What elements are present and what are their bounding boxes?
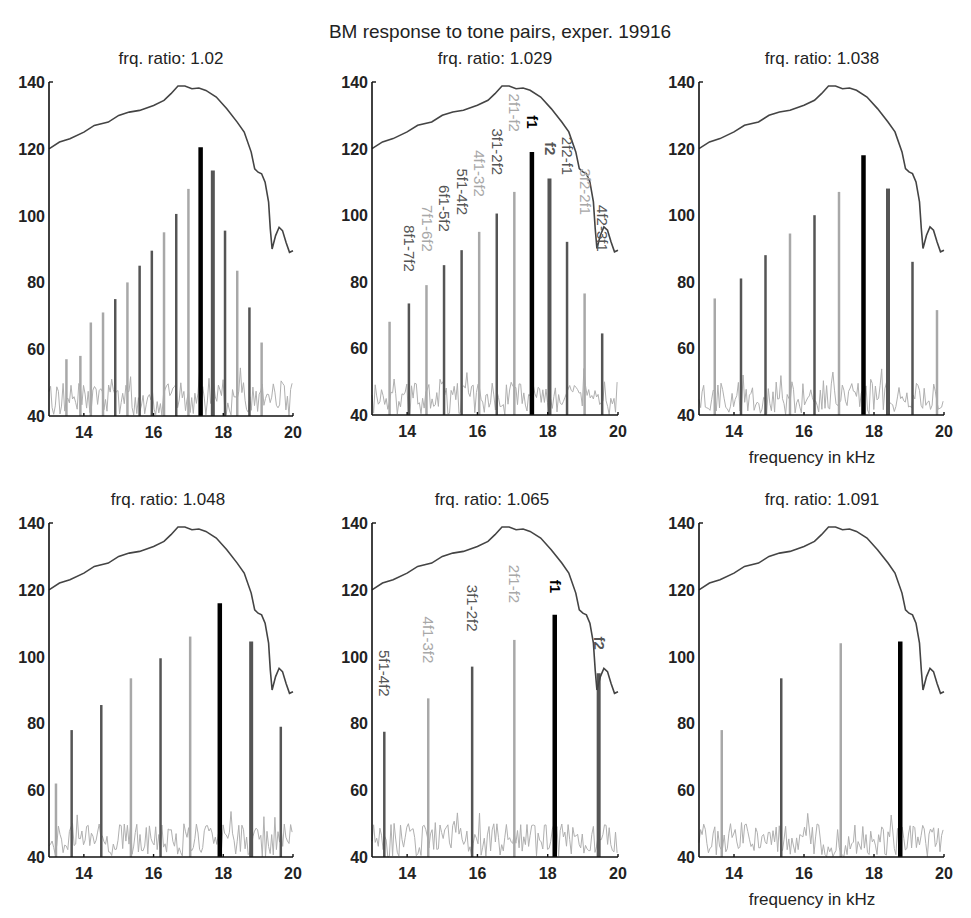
bm-response-envelope xyxy=(372,527,618,693)
x-tick-label: 16 xyxy=(469,865,487,882)
component-label: 4f2-3f1 xyxy=(594,205,611,252)
y-tick-label: 40 xyxy=(350,849,368,866)
x-tick-label: 16 xyxy=(145,865,163,882)
x-tick-label: 14 xyxy=(398,865,416,882)
y-tick-label: 40 xyxy=(27,849,45,866)
y-tick-label: 80 xyxy=(27,715,45,732)
x-tick-label: 14 xyxy=(75,865,93,882)
bm-response-envelope xyxy=(49,86,293,252)
x-tick-label: 20 xyxy=(609,423,627,440)
noise-floor-trace xyxy=(49,812,292,857)
noise-floor-trace xyxy=(699,369,943,415)
bm-response-envelope xyxy=(699,86,944,252)
x-axis-label: frequency in kHz xyxy=(749,448,876,467)
y-tick-label: 60 xyxy=(350,782,368,799)
component-label: 4f1-3f2 xyxy=(420,617,437,664)
x-tick-label: 18 xyxy=(539,865,557,882)
y-tick-label: 140 xyxy=(668,515,695,532)
component-label: f2 xyxy=(591,637,608,650)
component-label: 2f1-f2 xyxy=(506,94,523,132)
y-tick-label: 140 xyxy=(341,515,368,532)
y-tick-label: 80 xyxy=(677,715,695,732)
x-tick-label: 18 xyxy=(865,423,883,440)
x-tick-label: 14 xyxy=(398,423,416,440)
x-axis-label: frequency in kHz xyxy=(749,890,876,909)
x-tick-label: 14 xyxy=(75,424,93,441)
bm-response-envelope xyxy=(49,527,293,693)
y-tick-label: 120 xyxy=(18,582,45,599)
panel-title: frq. ratio: 1.065 xyxy=(435,490,549,509)
figure: BM response to tone pairs, exper. 19916 … xyxy=(0,0,971,918)
x-tick-label: 18 xyxy=(539,423,557,440)
noise-floor-trace xyxy=(372,813,617,857)
x-tick-label: 18 xyxy=(214,424,232,441)
y-tick-label: 60 xyxy=(350,340,368,357)
y-tick-label: 140 xyxy=(18,74,45,91)
y-tick-label: 120 xyxy=(668,582,695,599)
x-tick-label: 20 xyxy=(935,423,953,440)
component-label: 3f1-2f2 xyxy=(464,585,481,632)
y-tick-label: 140 xyxy=(18,515,45,532)
x-tick-label: 16 xyxy=(145,424,163,441)
x-tick-label: 20 xyxy=(935,865,953,882)
y-tick-label: 100 xyxy=(668,207,695,224)
bm-response-envelope xyxy=(699,527,944,693)
panel-ratio-1-029: frq. ratio: 1.029 4060801001201401416182… xyxy=(341,49,627,440)
y-tick-label: 120 xyxy=(341,141,368,158)
noise-floor-trace xyxy=(699,813,943,856)
x-tick-label: 18 xyxy=(214,865,232,882)
component-label: 2f2-f1 xyxy=(559,137,576,175)
x-tick-label: 14 xyxy=(725,865,743,882)
y-tick-label: 80 xyxy=(677,274,695,291)
component-label: f1 xyxy=(524,115,541,128)
component-label: 2f1-f2 xyxy=(506,565,523,603)
y-tick-label: 80 xyxy=(27,274,45,291)
x-tick-label: 16 xyxy=(469,423,487,440)
panel-title: frq. ratio: 1.02 xyxy=(119,49,224,68)
panel-ratio-1-02: frq. ratio: 1.02 40608010012014014161820 xyxy=(18,49,302,441)
x-tick-label: 20 xyxy=(284,865,302,882)
x-tick-label: 16 xyxy=(795,423,813,440)
component-label: f1 xyxy=(547,580,564,593)
x-tick-label: 16 xyxy=(795,865,813,882)
y-tick-label: 60 xyxy=(677,340,695,357)
y-tick-label: 40 xyxy=(27,408,45,425)
component-label: 4f1-3f2 xyxy=(471,150,488,197)
component-label: f2 xyxy=(542,142,559,155)
component-label: 3f2-2f1 xyxy=(577,168,594,215)
y-tick-label: 100 xyxy=(18,208,45,225)
y-tick-label: 60 xyxy=(27,341,45,358)
x-tick-label: 20 xyxy=(609,865,627,882)
y-tick-label: 140 xyxy=(341,74,368,91)
y-tick-label: 120 xyxy=(341,582,368,599)
panel-ratio-1-091: frq. ratio: 1.091 frequency in kHz 40608… xyxy=(668,490,953,909)
y-tick-label: 100 xyxy=(668,649,695,666)
y-tick-label: 100 xyxy=(341,207,368,224)
x-tick-label: 20 xyxy=(284,424,302,441)
component-label: 5f1-4f2 xyxy=(376,650,393,697)
panel-title: frq. ratio: 1.048 xyxy=(111,490,225,509)
y-tick-label: 40 xyxy=(677,407,695,424)
y-tick-label: 40 xyxy=(677,849,695,866)
noise-floor-trace xyxy=(49,368,292,416)
y-tick-label: 100 xyxy=(18,649,45,666)
component-label: 3f1-2f2 xyxy=(489,128,506,175)
y-tick-label: 60 xyxy=(27,782,45,799)
y-tick-label: 80 xyxy=(350,274,368,291)
y-tick-label: 140 xyxy=(668,74,695,91)
y-tick-label: 40 xyxy=(350,407,368,424)
component-label: 8f1-7f2 xyxy=(401,225,418,272)
panel-title: frq. ratio: 1.091 xyxy=(765,490,879,509)
panel-title: frq. ratio: 1.038 xyxy=(765,49,879,68)
figure-title: BM response to tone pairs, exper. 19916 xyxy=(329,21,671,42)
y-tick-label: 120 xyxy=(18,141,45,158)
y-tick-label: 80 xyxy=(350,715,368,732)
y-tick-label: 100 xyxy=(341,649,368,666)
panel-ratio-1-048: frq. ratio: 1.048 4060801001201401416182… xyxy=(18,490,302,882)
x-tick-label: 14 xyxy=(725,423,743,440)
panel-ratio-1-038: frq. ratio: 1.038 frequency in kHz 40608… xyxy=(668,49,953,467)
y-tick-label: 120 xyxy=(668,141,695,158)
y-tick-label: 60 xyxy=(677,782,695,799)
component-label: 7f1-6f2 xyxy=(419,205,436,252)
panel-title: frq. ratio: 1.029 xyxy=(438,49,552,68)
